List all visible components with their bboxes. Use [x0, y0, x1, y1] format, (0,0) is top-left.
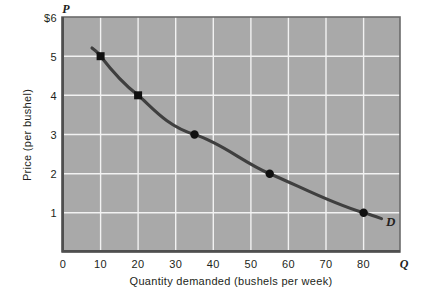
y-tick-label-4: 4 [50, 90, 57, 102]
demand-curve-label-D: D [385, 214, 396, 229]
y-tick-label-3: 3 [50, 129, 57, 141]
data-point-q20-p4 [134, 91, 142, 99]
x-tick-label-0: 0 [60, 258, 67, 270]
data-point-q55-p2 [266, 170, 274, 178]
x-axis-title: Quantity demanded (bushels per week) [130, 275, 333, 287]
x-tick-label-20: 20 [132, 258, 145, 270]
x-tick-label-30: 30 [169, 258, 182, 270]
data-point-q80-p1 [359, 209, 367, 217]
y-axis-symbol-P: P [62, 2, 70, 16]
y-tick-label-1: 1 [50, 207, 57, 219]
x-tick-label-60: 60 [282, 258, 295, 270]
x-tick-label-80: 80 [357, 258, 370, 270]
data-point-q10-p5 [97, 52, 105, 60]
y-tick-label-2: 2 [50, 168, 57, 180]
y-tick-label-5: 5 [50, 51, 57, 63]
x-tick-label-10: 10 [94, 258, 107, 270]
x-axis-tick-labels: 0 10 20 30 40 50 60 70 80 [60, 258, 370, 270]
y-axis-title: Price (per bushel) [21, 89, 33, 181]
x-tick-label-50: 50 [244, 258, 257, 270]
data-point-q35-p3 [190, 130, 198, 138]
demand-curve-figure: $6 5 4 3 2 1 0 10 20 30 40 50 60 70 80 P… [0, 0, 422, 291]
chart-canvas: $6 5 4 3 2 1 0 10 20 30 40 50 60 70 80 P… [0, 0, 422, 291]
x-tick-label-70: 70 [319, 258, 332, 270]
y-tick-label-6: $6 [44, 12, 57, 24]
y-axis-tick-labels: $6 5 4 3 2 1 [44, 12, 57, 220]
x-axis-symbol-Q: Q [400, 257, 409, 271]
x-tick-label-40: 40 [207, 258, 220, 270]
